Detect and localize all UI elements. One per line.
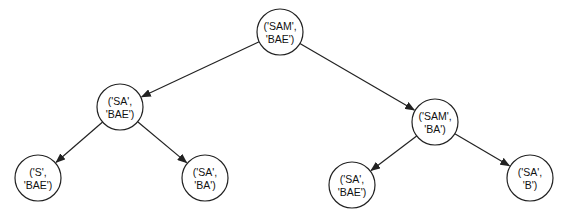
tree-diagram: ('SAM','BAE')('SA','BAE')('SAM','BA')('S…	[0, 0, 562, 212]
tree-node-rr: ('SA','B')	[507, 155, 553, 201]
edge-root-l	[142, 42, 259, 97]
node-circle	[257, 9, 303, 55]
node-label-line2: 'BAE')	[106, 108, 135, 120]
tree-node-root: ('SAM','BAE')	[257, 9, 303, 55]
edge-r-rr	[455, 134, 510, 166]
node-circle	[97, 84, 143, 130]
tree-node-l: ('SA','BAE')	[97, 84, 143, 130]
edge-l-ll	[56, 122, 102, 162]
node-label-line1: ('SA',	[193, 166, 217, 178]
node-circle	[182, 155, 228, 201]
edge-root-r	[300, 44, 414, 110]
node-label-line2: 'BA')	[194, 179, 216, 191]
node-circle	[15, 155, 61, 201]
node-label-line1: ('SAM',	[418, 110, 451, 122]
node-label-line1: ('SA',	[108, 95, 132, 107]
node-label-line1: ('SA',	[518, 166, 542, 178]
tree-node-ll: ('S','BAE')	[15, 155, 61, 201]
node-label-line1: ('SA',	[340, 173, 364, 185]
node-label-line2: 'BAE')	[24, 179, 53, 191]
node-label-line2: 'BAE')	[266, 33, 295, 45]
tree-node-rl: ('SA','BAE')	[329, 162, 375, 208]
node-label-line2: 'B')	[523, 179, 538, 191]
edge-l-lr	[138, 122, 187, 163]
edge-r-rl	[371, 136, 417, 171]
node-circle	[507, 155, 553, 201]
node-label-line2: 'BAE')	[338, 186, 367, 198]
node-circle	[412, 99, 458, 145]
node-label-line2: 'BA')	[424, 123, 446, 135]
node-label-line1: ('S',	[29, 166, 46, 178]
tree-node-lr: ('SA','BA')	[182, 155, 228, 201]
nodes: ('SAM','BAE')('SA','BAE')('SAM','BA')('S…	[15, 9, 553, 208]
tree-node-r: ('SAM','BA')	[412, 99, 458, 145]
node-label-line1: ('SAM',	[263, 20, 296, 32]
node-circle	[329, 162, 375, 208]
